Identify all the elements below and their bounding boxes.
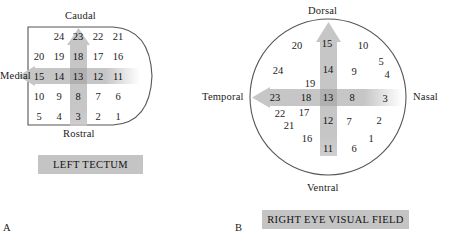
number-cell: 1 bbox=[115, 111, 120, 122]
number-cell: 23 bbox=[73, 31, 84, 42]
number-cell: 12 bbox=[323, 115, 334, 126]
label-temporal: Temporal bbox=[202, 91, 244, 102]
number-cell: 13 bbox=[323, 92, 334, 103]
number-cell: 8 bbox=[75, 91, 80, 102]
number-cell: 5 bbox=[378, 56, 383, 67]
panel-letter-b: B bbox=[235, 222, 242, 233]
label-caudal: Caudal bbox=[65, 10, 96, 21]
number-cell: 11 bbox=[113, 71, 123, 82]
panel-letter-a: A bbox=[3, 222, 11, 233]
number-cell: 10 bbox=[358, 40, 369, 51]
number-cell: 20 bbox=[292, 40, 303, 51]
number-cell: 8 bbox=[349, 92, 354, 103]
number-cell: 14 bbox=[323, 64, 334, 75]
number-cell: 14 bbox=[54, 71, 65, 82]
number-cell: 3 bbox=[75, 111, 80, 122]
number-cell: 7 bbox=[346, 116, 351, 127]
number-cell: 4 bbox=[384, 69, 389, 80]
label-ventral: Ventral bbox=[307, 182, 339, 193]
number-cell: 17 bbox=[93, 51, 104, 62]
number-cell: 19 bbox=[305, 78, 316, 89]
number-cell: 22 bbox=[275, 108, 286, 119]
number-cell: 16 bbox=[113, 51, 124, 62]
number-cell: 21 bbox=[284, 120, 295, 131]
number-cell: 4 bbox=[56, 111, 61, 122]
number-cell: 23 bbox=[270, 92, 281, 103]
label-rostral: Rostral bbox=[63, 128, 95, 139]
number-cell: 15 bbox=[34, 71, 45, 82]
number-cell: 9 bbox=[351, 66, 356, 77]
panel-a-left-tectum: Caudal Rostral Medial 242322212019181716… bbox=[0, 0, 210, 249]
number-cell: 12 bbox=[93, 71, 104, 82]
number-cell: 9 bbox=[56, 91, 61, 102]
number-cell: 1 bbox=[368, 133, 373, 144]
number-cell: 6 bbox=[115, 91, 120, 102]
number-cell: 2 bbox=[95, 111, 100, 122]
number-cell: 11 bbox=[323, 143, 333, 154]
number-cell: 20 bbox=[34, 51, 45, 62]
number-cell: 3 bbox=[382, 93, 387, 104]
number-cell: 16 bbox=[302, 133, 313, 144]
number-cell: 18 bbox=[73, 51, 84, 62]
number-cell: 7 bbox=[95, 91, 100, 102]
number-cell: 15 bbox=[322, 38, 333, 49]
number-cell: 18 bbox=[301, 92, 312, 103]
number-cell: 10 bbox=[34, 91, 45, 102]
number-cell: 22 bbox=[93, 31, 104, 42]
caption-right-eye-visual-field: RIGHT EYE VISUAL FIELD bbox=[262, 210, 409, 229]
number-cell: 17 bbox=[299, 107, 310, 118]
number-cell: 24 bbox=[54, 31, 65, 42]
number-cell: 21 bbox=[113, 31, 124, 42]
panel-b-right-eye-visual-field: Dorsal Ventral Temporal Nasal 2015102414… bbox=[200, 0, 449, 249]
label-dorsal: Dorsal bbox=[308, 5, 337, 16]
number-cell: 13 bbox=[73, 71, 84, 82]
panel-a-graphics bbox=[0, 0, 210, 249]
label-nasal: Nasal bbox=[413, 91, 438, 102]
caption-left-tectum: LEFT TECTUM bbox=[38, 155, 143, 174]
number-cell: 5 bbox=[36, 111, 41, 122]
number-cell: 6 bbox=[351, 143, 356, 154]
number-cell: 2 bbox=[376, 115, 381, 126]
number-cell: 24 bbox=[273, 65, 284, 76]
label-medial: Medial bbox=[0, 70, 31, 81]
number-cell: 19 bbox=[54, 51, 65, 62]
